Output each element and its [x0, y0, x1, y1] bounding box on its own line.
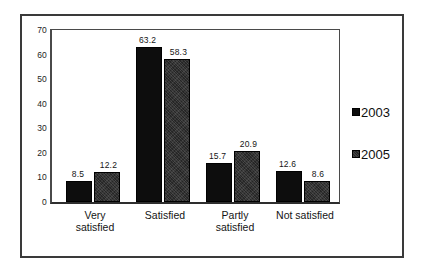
y-axis-tick-40: 40: [37, 99, 47, 109]
bar-2005-partly-satisfied[interactable]: 20.9: [234, 151, 260, 202]
bar-2003-not-satisfied[interactable]: 12.6: [276, 171, 302, 202]
y-axis-tick-60: 60: [37, 50, 47, 60]
chart-legend: 2003 2005: [352, 101, 404, 185]
legend-item-2003[interactable]: 2003: [352, 101, 404, 123]
bar-value-2005-partly-satisfied: 20.9: [240, 139, 257, 149]
figure-frame: 70 60 50 40 30 20 10 0 8.5 12.2 Very sat…: [20, 14, 404, 258]
bar-group-satisfied: 63.2 58.3 Satisfied: [136, 30, 194, 202]
legend-item-2005[interactable]: 2005: [352, 143, 404, 165]
bar-2005-satisfied[interactable]: 58.3: [164, 59, 190, 202]
legend-label-2003: 2003: [361, 105, 390, 120]
bar-group-not-satisfied: 12.6 8.6 Not satisfied: [276, 30, 334, 202]
bar-value-2005-not-satisfied: 8.6: [312, 169, 324, 179]
y-axis-tick-10: 10: [37, 172, 47, 182]
y-axis-tick-20: 20: [37, 148, 47, 158]
y-axis-tick-50: 50: [37, 74, 47, 84]
bar-value-2003-partly-satisfied: 15.7: [209, 151, 226, 161]
y-axis-tick-0: 0: [42, 197, 47, 207]
bar-group-partly-satisfied: 15.7 20.9 Partly satisfied: [206, 30, 264, 202]
legend-label-2005: 2005: [361, 147, 390, 162]
bar-value-2005-satisfied: 58.3: [170, 47, 187, 57]
bar-2003-very-satisfied[interactable]: 8.5: [66, 181, 92, 202]
x-axis-label-not-satisfied: Not satisfied: [260, 209, 350, 221]
bar-value-2005-very-satisfied: 12.2: [100, 160, 117, 170]
y-axis-tick-30: 30: [37, 123, 47, 133]
bar-2005-not-satisfied[interactable]: 8.6: [304, 181, 330, 202]
bar-chart: 70 60 50 40 30 20 10 0 8.5 12.2 Very sat…: [22, 16, 406, 260]
bar-value-2003-very-satisfied: 8.5: [72, 169, 84, 179]
plot-area: 70 60 50 40 30 20 10 0 8.5 12.2 Very sat…: [50, 29, 340, 204]
bar-2005-very-satisfied[interactable]: 12.2: [94, 172, 120, 202]
legend-swatch-2005-icon: [352, 150, 360, 158]
y-axis-tick-70: 70: [37, 25, 47, 35]
bar-group-very-satisfied: 8.5 12.2 Very satisfied: [66, 30, 124, 202]
bar-value-2003-satisfied: 63.2: [139, 35, 156, 45]
bar-2003-satisfied[interactable]: 63.2: [136, 47, 162, 202]
legend-swatch-2003-icon: [352, 108, 360, 116]
bar-value-2003-not-satisfied: 12.6: [279, 159, 296, 169]
bar-2003-partly-satisfied[interactable]: 15.7: [206, 163, 232, 202]
